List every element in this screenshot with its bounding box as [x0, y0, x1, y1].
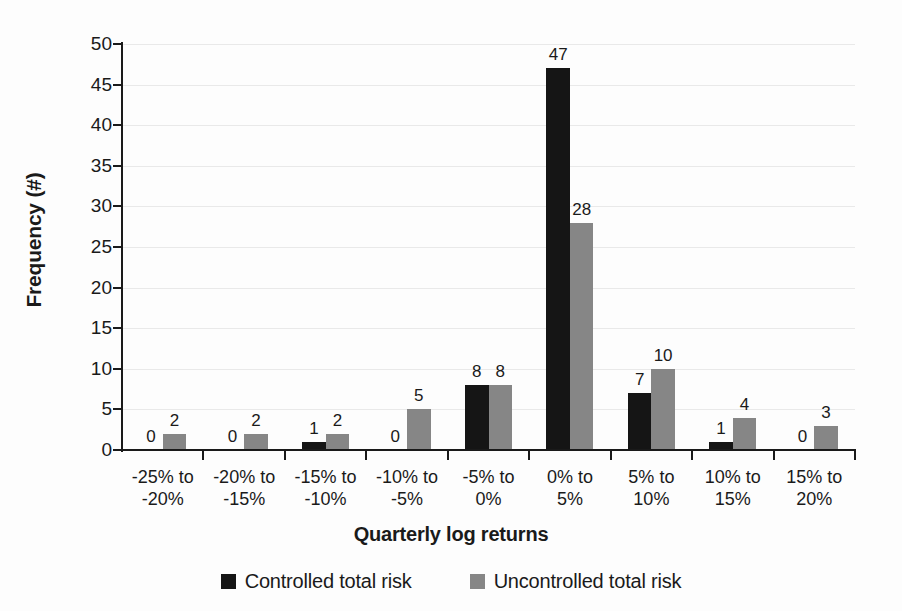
- x-axis-tick-label-line: -25% to: [122, 466, 203, 488]
- y-axis-tick-label: 35: [62, 155, 112, 177]
- x-axis-tick-label: 0% to5%: [529, 466, 610, 510]
- x-axis-tick-label-line: 15% to: [774, 466, 855, 488]
- y-axis-tick-label: 5: [62, 398, 112, 420]
- x-axis-tick-label: 5% to10%: [611, 466, 692, 510]
- bar-value-label: 2: [236, 411, 276, 431]
- y-axis-tick-label: 40: [62, 114, 112, 136]
- y-axis-tick-label: 15: [62, 317, 112, 339]
- plot-area: 020212058847287101403: [122, 44, 855, 450]
- x-axis-spine: [121, 449, 856, 451]
- x-axis-tick-label: 15% to20%: [774, 466, 855, 510]
- x-axis-tick: [447, 451, 449, 460]
- bar-value-label: 28: [562, 200, 602, 220]
- x-axis-tick-label-line: -15%: [203, 488, 284, 510]
- bar-value-label: 4: [725, 395, 765, 415]
- bar-value-label: 5: [399, 386, 439, 406]
- bar: [628, 393, 652, 450]
- gridline: [122, 85, 855, 86]
- x-axis-tick-label: 10% to15%: [692, 466, 773, 510]
- bar: [546, 68, 570, 450]
- x-axis-tick-label-line: 5% to: [611, 466, 692, 488]
- x-axis-tick: [773, 451, 775, 460]
- y-axis-tick-label: 25: [62, 236, 112, 258]
- gridline: [122, 44, 855, 45]
- y-axis-title: Frequency (#): [22, 0, 46, 140]
- x-axis-tick-label: -10% to-5%: [366, 466, 447, 510]
- x-axis-tick-label-line: -5% to: [448, 466, 529, 488]
- bar-value-label: 0: [783, 427, 823, 447]
- x-axis-tick-label-line: 20%: [774, 488, 855, 510]
- y-axis-spine: [121, 42, 123, 452]
- y-axis-title-label: Frequency (#): [22, 140, 46, 340]
- chart-legend: Controlled total riskUncontrolled total …: [0, 570, 902, 593]
- bar-value-label: 47: [538, 45, 578, 65]
- x-axis-tick: [610, 451, 612, 460]
- x-axis-tick-label-line: -10%: [285, 488, 366, 510]
- y-axis-tick-label: 30: [62, 195, 112, 217]
- x-axis-title: Quarterly log returns: [0, 523, 902, 546]
- x-axis-tick: [202, 451, 204, 460]
- y-axis-tick-label: 50: [62, 33, 112, 55]
- legend-label: Uncontrolled total risk: [494, 570, 682, 593]
- bar: [570, 223, 594, 450]
- x-axis-tick-label-line: 0%: [448, 488, 529, 510]
- x-axis-tick: [528, 451, 530, 460]
- bar: [489, 385, 513, 450]
- gridline: [122, 206, 855, 207]
- bar-value-label: 10: [643, 346, 683, 366]
- y-axis-tick-label: 45: [62, 74, 112, 96]
- bar-value-label: 2: [317, 411, 357, 431]
- x-axis-tick: [691, 451, 693, 460]
- x-axis-tick-label-line: -10% to: [366, 466, 447, 488]
- x-axis-tick-label-line: 10%: [611, 488, 692, 510]
- bar-value-label: 0: [375, 427, 415, 447]
- x-axis-tick-label: -5% to0%: [448, 466, 529, 510]
- x-axis-tick-label-line: 5%: [529, 488, 610, 510]
- gridline: [122, 125, 855, 126]
- bar-value-label: 2: [154, 411, 194, 431]
- legend-swatch-icon: [221, 574, 236, 589]
- legend-item[interactable]: Controlled total risk: [221, 570, 412, 593]
- gridline: [122, 328, 855, 329]
- x-axis-tick-label-line: -15% to: [285, 466, 366, 488]
- bar-value-label: 8: [480, 362, 520, 382]
- x-axis-tick-label-line: 10% to: [692, 466, 773, 488]
- x-axis-tick: [854, 451, 856, 460]
- y-axis-tick-label: 0: [62, 439, 112, 461]
- bar-value-label: 3: [806, 403, 846, 423]
- x-axis-tick-label: -20% to-15%: [203, 466, 284, 510]
- x-axis-tick: [284, 451, 286, 460]
- y-axis-tick-label: 10: [62, 358, 112, 380]
- chart-container: Frequency (#) 05101520253035404550 02021…: [0, 0, 902, 611]
- x-axis-tick-label-line: -5%: [366, 488, 447, 510]
- bar: [465, 385, 489, 450]
- legend-label: Controlled total risk: [245, 570, 412, 593]
- y-axis-tick-label: 20: [62, 277, 112, 299]
- x-axis-tick-label: -15% to-10%: [285, 466, 366, 510]
- x-axis-tick-label-line: 0% to: [529, 466, 610, 488]
- x-axis-tick-label-line: 15%: [692, 488, 773, 510]
- x-axis-tick-label: -25% to-20%: [122, 466, 203, 510]
- legend-item[interactable]: Uncontrolled total risk: [470, 570, 682, 593]
- gridline: [122, 288, 855, 289]
- gridline: [122, 166, 855, 167]
- x-axis-tick: [365, 451, 367, 460]
- bar-value-label: 1: [701, 419, 741, 439]
- bar-value-label: 7: [620, 370, 660, 390]
- legend-swatch-icon: [470, 574, 485, 589]
- x-axis-tick-label-line: -20% to: [203, 466, 284, 488]
- x-axis-tick-label-line: -20%: [122, 488, 203, 510]
- gridline: [122, 247, 855, 248]
